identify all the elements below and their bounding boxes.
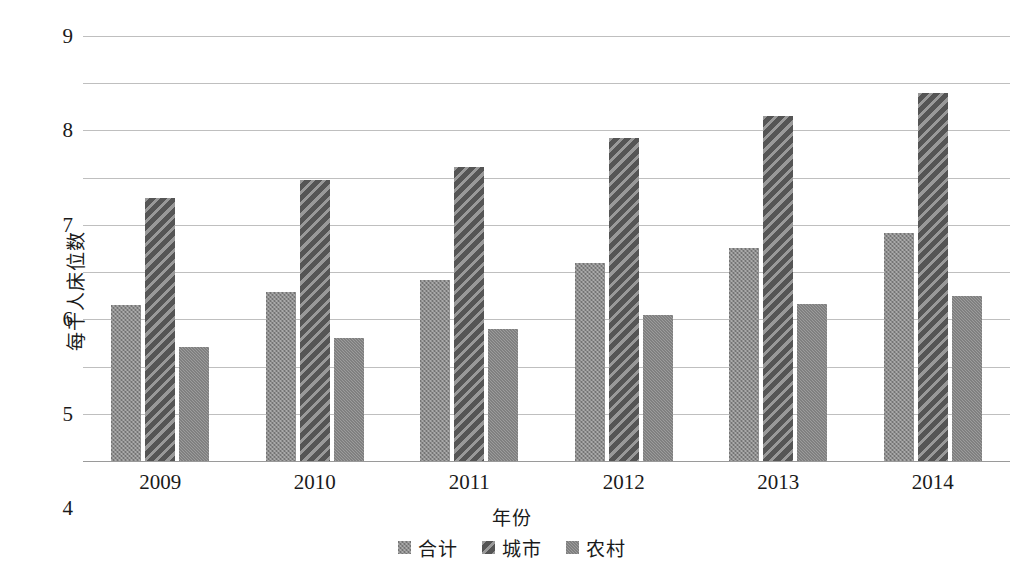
bar-group [83, 36, 238, 461]
legend-item[interactable]: 城市 [482, 534, 542, 561]
bar[interactable] [643, 315, 673, 461]
bar-chart: 每千人床位数 9876543210 2009201020112012201320… [0, 0, 1023, 582]
legend-swatch-icon [482, 541, 495, 554]
bar-group [701, 36, 856, 461]
bar[interactable] [111, 305, 141, 461]
x-axis-tick-label: 2011 [392, 470, 547, 495]
x-axis-tick-labels: 200920102011201220132014 [83, 470, 1010, 495]
y-axis-tick-label: 9 [63, 26, 74, 47]
bar-groups [83, 36, 1010, 461]
axis-baseline: 0 [83, 461, 1010, 462]
bar[interactable] [179, 347, 209, 461]
bar[interactable] [266, 292, 296, 461]
legend-swatch-icon [398, 541, 411, 554]
bar[interactable] [575, 263, 605, 461]
y-axis-tick-label: 7 [63, 214, 74, 235]
plot-area: 9876543210 [83, 36, 1010, 461]
bar[interactable] [454, 167, 484, 461]
x-axis-title: 年份 [0, 503, 1023, 530]
legend-item[interactable]: 农村 [566, 534, 626, 561]
y-axis-tick-label: 6 [63, 309, 74, 330]
x-axis-tick-label: 2012 [547, 470, 702, 495]
bar[interactable] [729, 248, 759, 461]
x-axis-tick-label: 2013 [701, 470, 856, 495]
chart-legend: 合计城市农村 [0, 534, 1023, 561]
x-axis-tick-label: 2014 [856, 470, 1011, 495]
bar[interactable] [918, 93, 948, 461]
legend-label: 城市 [502, 534, 542, 561]
x-axis-tick-label: 2009 [83, 470, 238, 495]
bar[interactable] [609, 138, 639, 461]
legend-swatch-icon [566, 541, 579, 554]
bar[interactable] [763, 116, 793, 461]
y-axis-tick-label: 5 [63, 403, 74, 424]
bar[interactable] [300, 180, 330, 461]
bar-group [547, 36, 702, 461]
bar[interactable] [488, 329, 518, 461]
y-axis-tick-label: 8 [63, 120, 74, 141]
bar-group [238, 36, 393, 461]
bar[interactable] [334, 338, 364, 461]
bar[interactable] [145, 198, 175, 461]
legend-label: 农村 [586, 534, 626, 561]
bar[interactable] [420, 280, 450, 461]
bar[interactable] [952, 296, 982, 461]
legend-label: 合计 [418, 534, 458, 561]
bar[interactable] [884, 233, 914, 461]
bar-group [856, 36, 1011, 461]
bar-group [392, 36, 547, 461]
bar[interactable] [797, 304, 827, 461]
x-axis-tick-label: 2010 [238, 470, 393, 495]
legend-item[interactable]: 合计 [398, 534, 458, 561]
